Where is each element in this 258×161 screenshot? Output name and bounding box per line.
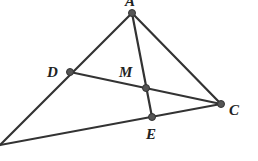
label-A: A <box>124 0 135 9</box>
label-C: C <box>229 102 240 118</box>
point-E <box>149 114 156 121</box>
geometry-diagram: A D M C E <box>0 0 258 161</box>
segments <box>0 13 221 145</box>
label-D: D <box>46 64 58 80</box>
point-C <box>218 101 225 108</box>
label-E: E <box>145 126 156 142</box>
segment-BC <box>0 104 221 145</box>
segment-AE <box>132 13 152 117</box>
point-D <box>67 69 74 76</box>
point-M <box>143 85 150 92</box>
label-M: M <box>118 64 133 80</box>
point-A <box>129 10 136 17</box>
